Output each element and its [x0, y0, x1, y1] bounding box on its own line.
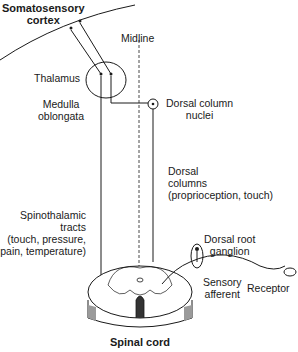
medial-lemniscus [111, 76, 148, 103]
thalamus-label: Thalamus [34, 72, 80, 84]
spinal-cord-section [88, 262, 192, 327]
sensory-afferent-label: Sensoryafferent [203, 276, 242, 300]
medulla-label: Medullaoblongata [38, 98, 84, 122]
dorsal-columns-label: Dorsalcolumns(proprioception, touch) [168, 165, 273, 201]
receptor-label: Receptor [247, 282, 290, 294]
cortex-label: Somatosensorycortex [2, 2, 85, 26]
thalamus-outline [86, 62, 126, 98]
sensory-afferent [190, 255, 285, 269]
spinal-cord-label: Spinal cord [110, 336, 170, 348]
dorsal-column-nuclei-label: Dorsal columnnuclei [166, 97, 233, 121]
drg-label: Dorsal rootganglion [204, 233, 255, 257]
spinothalamic-label: Spinothalamictracts(touch, pressure,pain… [0, 209, 86, 257]
receptor [284, 268, 296, 276]
midline-label: Midline [121, 32, 154, 44]
